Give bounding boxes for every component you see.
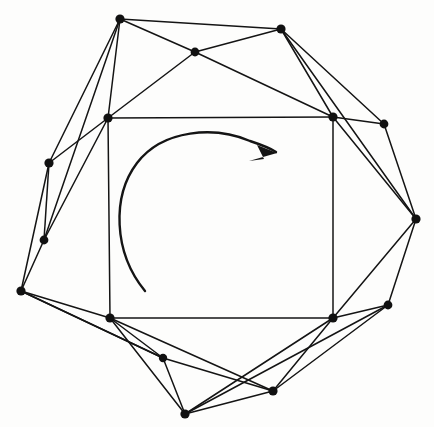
graph-vertex-left-lower-outer[interactable]: [16, 286, 25, 295]
graph-edge-v4-q2: [333, 117, 384, 124]
graph-edge-v2-v3: [195, 29, 281, 52]
graph-edge-q4-v7: [110, 318, 273, 391]
graph-vertex-left-upper-outer[interactable]: [44, 158, 53, 167]
graph-edge-v3-v5: [281, 29, 416, 219]
graph-edge-v5-q3: [333, 219, 416, 318]
graph-vertex-top-right-outer[interactable]: [276, 24, 285, 33]
graph-edge-v11-q1: [44, 118, 108, 240]
graph-edge-v7-v8: [185, 391, 273, 414]
graph-vertex-top-mid-inner[interactable]: [191, 48, 200, 57]
graph-edge-v1-v2: [120, 19, 195, 52]
graph-edge-v10-v11: [21, 240, 44, 291]
vertex-layer: [16, 14, 420, 418]
rotation-arc: [119, 132, 276, 291]
graph-edge-v1-q1: [108, 19, 120, 118]
diagram-root: Rotating polygon graph diagram: [0, 0, 434, 427]
graph-edge-v1-v3: [120, 19, 281, 29]
graph-edge-v5-q2: [333, 117, 416, 219]
graph-edge-v10-q4: [21, 291, 110, 318]
graph-edge-v3-v4: [281, 29, 384, 124]
graph-edge-v1-v12: [49, 19, 120, 163]
graph-edge-v8-v9: [163, 358, 185, 414]
graph-vertex-right-lower-outer[interactable]: [384, 301, 393, 310]
graph-edge-v7-q3: [273, 318, 333, 391]
graph-edge-q1-q2: [108, 117, 333, 118]
graph-edge-v2-q2: [195, 52, 333, 117]
graph-canvas: Rotating polygon graph diagram: [0, 0, 434, 427]
graph-vertex-top-left-outer[interactable]: [115, 14, 124, 23]
graph-vertex-bottom-outer[interactable]: [180, 409, 189, 418]
graph-edge-v7-v9: [163, 358, 273, 391]
graph-vertex-right-upper-outer[interactable]: [380, 120, 389, 129]
graph-edge-v10-v9: [21, 291, 163, 358]
rotation-arrow-annotation: [119, 132, 277, 291]
graph-edge-q4-q1: [108, 118, 110, 318]
edge-layer: [21, 19, 416, 414]
graph-edge-v5-v6: [388, 219, 416, 305]
graph-vertex-bottom-right-outer[interactable]: [268, 386, 277, 395]
graph-edge-v12-q1: [49, 118, 108, 163]
graph-vertex-right-outer[interactable]: [411, 214, 420, 223]
graph-vertex-square-bottom-left[interactable]: [105, 313, 114, 322]
graph-vertex-left-mid-outer[interactable]: [40, 236, 49, 245]
graph-edge-v6-v8: [185, 305, 388, 414]
graph-edge-v8-q4: [110, 318, 185, 414]
graph-vertex-bottom-left-mid[interactable]: [159, 354, 167, 362]
rotation-arrowhead-icon: [249, 145, 277, 161]
graph-vertex-square-bottom-right[interactable]: [328, 313, 337, 322]
graph-vertex-square-top-right[interactable]: [328, 112, 337, 121]
graph-edge-v3-q2: [281, 29, 333, 117]
graph-edge-v2-q1: [108, 52, 195, 118]
graph-edge-q3-v8: [185, 318, 333, 414]
graph-edge-v4-v5: [384, 124, 416, 219]
graph-vertex-square-top-left[interactable]: [103, 113, 112, 122]
